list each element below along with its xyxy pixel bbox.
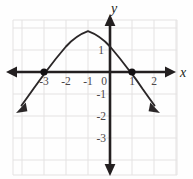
x-tick-label-minus-two: -2 xyxy=(61,75,71,87)
x-axis-right-arrow-icon xyxy=(165,67,176,78)
y-axis-down-arrow-icon xyxy=(105,164,116,176)
y-tick-label-minus-three: -3 xyxy=(96,132,106,144)
graph-figure: -3 -2 -1 0 1 2 1 -1 -2 -3 x y xyxy=(0,0,193,179)
grid-horizontal-lines xyxy=(13,28,177,160)
y-tick-labels: 1 -1 -2 -3 xyxy=(96,44,106,144)
y-tick-label-one: 1 xyxy=(98,44,104,56)
x-tick-label-two: 2 xyxy=(151,75,157,87)
y-tick-label-minus-two: -2 xyxy=(96,110,106,122)
x-tick-label-minus-one: -1 xyxy=(83,75,93,87)
y-axis-label: y xyxy=(109,1,118,16)
y-tick-label-minus-one: -1 xyxy=(96,88,106,100)
x-tick-label-zero: 0 xyxy=(101,75,107,87)
x-tick-label-one: 1 xyxy=(129,75,135,87)
x-tick-label-minus-three: -3 xyxy=(39,75,49,87)
x-axis-label: x xyxy=(179,65,187,80)
x-axis-left-arrow-icon xyxy=(6,67,17,78)
grid-border xyxy=(13,20,177,175)
y-axis xyxy=(105,14,116,176)
